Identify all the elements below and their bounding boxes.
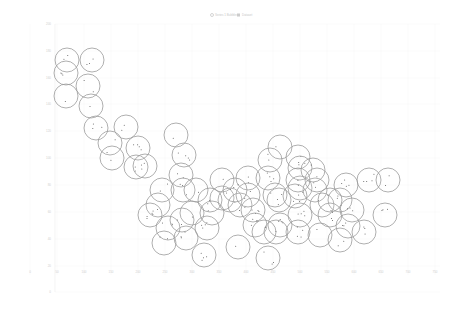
bubble-point[interactable] [80, 48, 104, 72]
data-dot [181, 224, 182, 225]
bubble-point[interactable] [263, 183, 287, 207]
data-dot [293, 201, 294, 202]
data-dot [298, 185, 299, 186]
data-dot [178, 152, 179, 153]
bubble-point[interactable] [54, 84, 78, 108]
y-tick-label: 60 [48, 210, 52, 214]
data-dot [258, 211, 259, 212]
data-dot [343, 241, 344, 242]
data-dot [382, 209, 383, 210]
data-dot [144, 163, 145, 164]
data-dot [341, 183, 342, 184]
bubble-point[interactable] [301, 158, 325, 182]
data-dot [389, 175, 390, 176]
data-dot [167, 184, 168, 185]
x-tick-label: 100 [81, 270, 86, 274]
data-dot [124, 125, 125, 126]
data-dot [202, 260, 203, 261]
data-dot [61, 73, 62, 74]
x-tick-label: 50 [55, 270, 59, 274]
bubble-point[interactable] [100, 146, 124, 170]
data-dot [238, 184, 239, 185]
data-dot [257, 210, 258, 211]
bubble-point[interactable] [133, 154, 157, 178]
data-dot [280, 219, 281, 220]
data-dot [62, 75, 63, 76]
data-dot [332, 220, 333, 221]
data-dot [313, 182, 314, 183]
data-dot [299, 201, 300, 202]
bubble-point[interactable] [79, 94, 103, 118]
data-dot [203, 257, 204, 258]
legend-label-1[interactable]: Dataset [242, 13, 253, 17]
data-dot [162, 222, 163, 223]
bubble-point[interactable] [258, 148, 282, 172]
data-dot [273, 262, 274, 263]
data-dot [230, 189, 231, 190]
data-dot [137, 144, 138, 145]
data-dot [181, 236, 182, 237]
data-dot [331, 218, 332, 219]
data-dot [350, 208, 351, 209]
bubble-point[interactable] [318, 188, 342, 212]
y-tick-label: 200 [46, 22, 51, 26]
data-dot [159, 237, 160, 238]
data-dot [177, 219, 178, 220]
data-dot [301, 237, 302, 238]
bubble-point[interactable] [170, 208, 194, 232]
data-dot [347, 208, 348, 209]
bubble-point[interactable] [198, 188, 222, 212]
data-dot [201, 253, 202, 254]
bubble-point[interactable] [376, 168, 400, 192]
data-dot [298, 164, 299, 165]
legend-label-0[interactable]: Series 1 Bubbles [215, 13, 238, 17]
data-dot [63, 59, 64, 60]
data-dot [133, 144, 134, 145]
data-dot [67, 55, 68, 56]
data-dot [107, 152, 108, 153]
data-dot [89, 63, 90, 64]
bubble-point[interactable] [226, 235, 250, 259]
data-dot [298, 214, 299, 215]
y-tick-label: 40 [48, 237, 52, 241]
data-dot [152, 214, 153, 215]
data-dot [65, 101, 66, 102]
data-dot [365, 233, 366, 234]
x-tick-label: 150 [108, 270, 113, 274]
data-dot [363, 181, 364, 182]
bubble-point[interactable] [223, 178, 247, 202]
y-tick-label: 80 [48, 183, 52, 187]
bubble-point[interactable] [373, 203, 397, 227]
y-tick-label: 180 [46, 49, 51, 53]
data-dot [92, 128, 93, 129]
data-dot [344, 180, 345, 181]
legend: Series 1 Bubbles Dataset [211, 13, 253, 17]
bubble-point[interactable] [352, 220, 376, 244]
data-dot [167, 238, 168, 239]
data-dot [298, 194, 299, 195]
x-tick-label: 350 [216, 270, 221, 274]
data-dot [90, 106, 91, 107]
data-dot [201, 225, 202, 226]
legend-marker-square-icon [237, 14, 240, 17]
bubble-chart: 2001801601401201008060402000501001502002… [0, 0, 462, 311]
bubble-point[interactable] [152, 231, 176, 255]
bubble-point[interactable] [286, 220, 310, 244]
data-dot [304, 215, 305, 216]
data-dot [202, 227, 203, 228]
data-dot [223, 179, 224, 180]
bubble-point[interactable] [54, 61, 78, 85]
bubble-point[interactable] [138, 203, 162, 227]
data-dot [239, 210, 240, 211]
data-dot [311, 164, 312, 165]
data-dot [272, 263, 273, 264]
data-dot [346, 186, 347, 187]
data-dot [275, 146, 276, 147]
data-dot [93, 58, 94, 59]
bubble-point[interactable] [256, 246, 280, 270]
data-dot [198, 192, 199, 193]
data-dot [188, 157, 189, 158]
bubble-point[interactable] [192, 243, 216, 267]
bubble-point[interactable] [252, 220, 276, 244]
data-dot [93, 91, 94, 92]
